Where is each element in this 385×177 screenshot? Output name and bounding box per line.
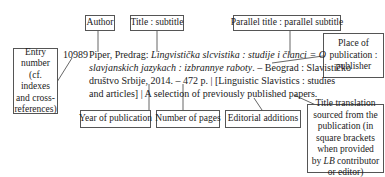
title-italic: Lingvistička slcvistika : studije i član… — [151, 49, 326, 60]
entry-number-line: (cf. indexes — [14, 70, 57, 93]
title-subtitle-label-text: Title : subtitle — [131, 17, 184, 29]
title-subtitle-label: Title : subtitle — [130, 15, 184, 31]
translation-line: sourced from the — [313, 110, 377, 122]
entry-line-2: slavjanskich jazykach : izbrannye raboty… — [89, 61, 379, 74]
parallel-title-italic: slavjanskich jazykach : izbrannye raboty — [89, 62, 252, 73]
translation-line: when provided — [317, 144, 374, 156]
entry-line-1: Piper, Predrag: Lingvistička slcvistika … — [89, 48, 379, 61]
translation-label: Title translation sourced from the publi… — [307, 104, 384, 173]
editorial-label: Editorial additions — [225, 110, 301, 128]
entry-number-label: Entry number (cf. indexes and cross- ref… — [13, 48, 58, 114]
translation-line: or editor) — [328, 167, 364, 177]
entry-number-connector — [57, 58, 72, 82]
translation-line: square brackets — [316, 133, 375, 145]
entry-number-line: and cross- — [16, 93, 55, 105]
entry-number-line: Entry — [25, 47, 46, 59]
author-name: Piper, Predrag: — [89, 49, 151, 60]
parallel-title-label: Parallel title : parallel subtitle — [233, 15, 341, 31]
entry-number-line: references) — [14, 104, 56, 116]
pages-label: Number of pages — [156, 110, 220, 128]
translation-line: Title translation — [315, 98, 375, 110]
pages-label-text: Number of pages — [155, 113, 220, 125]
editorial-label-text: Editorial additions — [228, 113, 298, 125]
year-label: Year of publication — [80, 110, 151, 128]
author-label-text: Author — [87, 17, 114, 29]
translation-contributor: contributor — [335, 156, 380, 166]
translation-line: publication (in — [318, 121, 374, 133]
entry-line-3: društvo Srbije, 2014. – 472 p. | [Lingui… — [89, 74, 379, 87]
translation-lb: LB — [324, 156, 335, 166]
parallel-title-label-text: Parallel title : parallel subtitle — [231, 17, 343, 29]
place-publisher-text: . – Beograd : Slavističko — [252, 62, 351, 73]
entry-number: 10989 — [63, 48, 88, 61]
translation-line: by LB contributor — [312, 156, 380, 168]
entry-number-line: number — [21, 58, 50, 70]
translation-by: by — [312, 156, 324, 166]
bibliographic-entry: Piper, Predrag: Lingvistička slcvistika … — [89, 48, 379, 100]
year-label-text: Year of publication — [79, 113, 152, 125]
author-label: Author — [85, 15, 115, 31]
